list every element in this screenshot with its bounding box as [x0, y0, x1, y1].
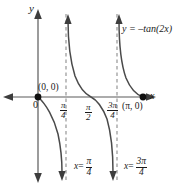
asymptote-label-pi-over-4-den: 4: [86, 167, 93, 178]
x-tick-3pi-over-4-num: 3π: [107, 101, 118, 110]
x-tick-3pi-over-4: 3π 4: [107, 101, 118, 120]
asymptote-label-pi-over-4-eq: =: [78, 161, 83, 171]
x-tick-pi-over-4-den: 4: [60, 110, 67, 120]
function-label: y = –tan(2x): [122, 24, 172, 34]
asymptote-label-3pi-over-4-num: 3π: [136, 157, 148, 167]
asymptote-label-3pi-over-4: x= 3π 4: [124, 157, 147, 177]
y-axis-label: y: [29, 3, 34, 14]
asymptote-label-3pi-over-4-den: 4: [136, 167, 148, 178]
asymptote-label-3pi-over-4-eq: =: [128, 161, 133, 171]
origin-tick-label: 0: [33, 100, 38, 110]
x-tick-pi-over-4: π 4: [60, 101, 67, 120]
x-tick-pi-over-4-num: π: [60, 101, 67, 110]
x-tick-pi-over-2: π 2: [85, 103, 92, 122]
x-tick-pi-over-2-num: π: [85, 103, 92, 112]
asymptote-label-pi-over-4-num: π: [86, 157, 93, 167]
point-label-origin: (0, 0): [38, 83, 59, 93]
point-pi-zero: [140, 94, 147, 101]
graph-figure: y x y = –tan(2x) (0, 0) (π, 0) 0 π 4 π 2…: [0, 0, 181, 186]
asymptote-label-pi-over-4: x= π 4: [74, 157, 92, 177]
x-tick-3pi-over-4-den: 4: [107, 110, 118, 120]
x-axis: [3, 93, 156, 101]
x-tick-pi-over-2-den: 2: [85, 112, 92, 122]
point-label-pi-zero: (π, 0): [122, 102, 143, 112]
x-axis-label: x: [150, 91, 154, 101]
